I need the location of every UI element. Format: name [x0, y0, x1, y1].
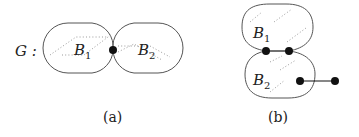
- b1-dotted-edge-2: [274, 9, 292, 22]
- block-b2-label: B2: [252, 71, 270, 91]
- block-b1-label: B1: [73, 41, 91, 61]
- diagram-canvas: G : B1 B2 (a) B1: [0, 0, 359, 137]
- cut-vertex: [109, 46, 117, 54]
- b1-dotted-edge-3: [287, 28, 306, 42]
- vertex-inner: [296, 77, 304, 85]
- block-b1-label: B1: [252, 24, 270, 44]
- b2-dotted-edge-1: [270, 56, 282, 62]
- b2-dotted-edge-2: [280, 60, 296, 70]
- vertex-left-cut: [262, 47, 270, 55]
- caption-b: (b): [268, 109, 288, 125]
- panel-a: G : B1 B2 (a): [15, 23, 183, 125]
- panel-b: B1 B2 (b): [242, 4, 339, 125]
- graph-label-g: G :: [15, 42, 37, 60]
- caption-a: (a): [103, 109, 122, 125]
- vertex-right-cut: [285, 47, 293, 55]
- block-b2-label: B2: [137, 41, 155, 61]
- b1-dotted-edge-1: [250, 12, 262, 22]
- vertex-pendant: [331, 77, 339, 85]
- b2-dotted-edge-3: [270, 80, 285, 92]
